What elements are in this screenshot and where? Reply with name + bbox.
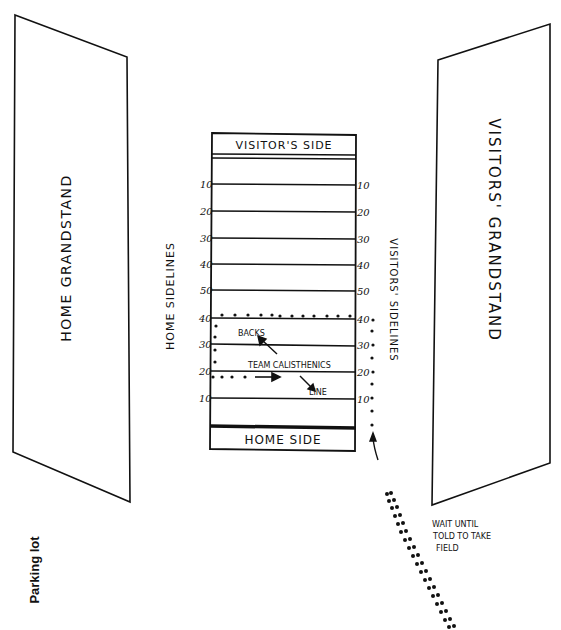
svg-text:20: 20 xyxy=(198,366,212,377)
svg-text:40: 40 xyxy=(356,260,370,271)
yard-line xyxy=(211,211,356,212)
line-label: LINE xyxy=(309,388,327,397)
svg-text:30: 30 xyxy=(357,340,370,351)
yard-line xyxy=(211,344,356,346)
svg-text:40: 40 xyxy=(198,313,212,324)
yard-line xyxy=(211,398,356,399)
entry-arrow-icon xyxy=(370,433,378,460)
marching-column xyxy=(385,491,456,629)
football-field xyxy=(210,133,356,451)
svg-text:10: 10 xyxy=(357,180,370,191)
home-side-label: HOME SIDE xyxy=(244,433,321,447)
yard-numbers-left: 10 20 30 40 50 40 30 20 10 xyxy=(198,179,213,404)
dotted-path-right xyxy=(370,318,374,426)
backs-label: BACKS xyxy=(238,329,265,338)
yard-numbers-right: 10 20 30 40 50 40 30 20 10 xyxy=(356,180,370,405)
svg-text:50: 50 xyxy=(357,286,370,297)
parking-lot-label: Parking lot xyxy=(27,536,42,604)
field-outline xyxy=(210,133,356,451)
yard-line xyxy=(211,184,356,185)
diagram-canvas: VISITOR'S SIDE HOME SIDE 10 20 30 40 50 … xyxy=(0,0,561,630)
svg-text:40: 40 xyxy=(199,259,213,270)
svg-text:30: 30 xyxy=(357,234,370,245)
svg-text:10: 10 xyxy=(200,179,213,190)
yard-line xyxy=(211,371,356,372)
svg-text:20: 20 xyxy=(199,206,213,217)
arrow-right-icon xyxy=(255,373,280,381)
svg-text:TOLD TO TAKE: TOLD TO TAKE xyxy=(432,532,491,541)
svg-text:40: 40 xyxy=(356,314,370,325)
yard-line xyxy=(211,290,356,291)
yard-line xyxy=(211,264,356,265)
wait-note: WAIT UNTIL TOLD TO TAKE FIELD xyxy=(432,520,491,553)
svg-text:FIELD: FIELD xyxy=(436,544,459,553)
yard-line xyxy=(211,238,356,239)
visitors-sidelines-label: VISITORS' SIDELINES xyxy=(388,238,399,361)
home-grandstand-label: HOME GRANDSTAND xyxy=(58,174,74,341)
svg-text:30: 30 xyxy=(200,233,213,244)
svg-text:20: 20 xyxy=(356,367,370,378)
visitors-side-label: VISITOR'S SIDE xyxy=(235,139,332,152)
svg-text:WAIT UNTIL: WAIT UNTIL xyxy=(432,520,479,529)
team-calisthenics-label: TEAM CALISTHENICS xyxy=(247,361,331,370)
home-sidelines-label: HOME SIDELINES xyxy=(164,242,177,350)
yard-line xyxy=(211,318,356,319)
svg-text:10: 10 xyxy=(357,394,370,405)
svg-text:20: 20 xyxy=(356,207,370,218)
svg-text:10: 10 xyxy=(199,393,212,404)
svg-text:50: 50 xyxy=(200,285,213,296)
visitors-grandstand-label: VISITORS' GRANDSTAND xyxy=(485,118,503,341)
svg-text:30: 30 xyxy=(199,339,212,350)
